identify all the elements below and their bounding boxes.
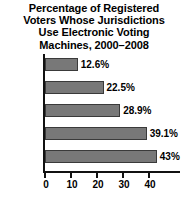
x-axis-tick-label: 30 <box>112 179 136 190</box>
bar[interactable] <box>45 81 104 94</box>
x-axis-line <box>43 171 180 173</box>
x-axis-tick-label: 40 <box>138 179 162 190</box>
bar-value-label: 39.1% <box>150 127 178 140</box>
x-axis-tick <box>44 173 46 178</box>
x-axis-tick-label: 20 <box>86 179 110 190</box>
bar-value-label: 43% <box>160 150 180 163</box>
chart-title: Percentage of Registered Voters Whose Ju… <box>0 2 188 51</box>
x-axis-tick-label: 0 <box>34 179 58 190</box>
bar-value-label: 28.9% <box>123 104 151 117</box>
bar[interactable] <box>45 58 78 71</box>
bar[interactable] <box>45 127 147 140</box>
bar-value-label: 12.6% <box>81 58 109 71</box>
bar-chart-figure: Percentage of Registered Voters Whose Ju… <box>0 0 188 204</box>
x-axis-tick-label: 10 <box>60 179 84 190</box>
x-axis-tick <box>122 173 124 178</box>
plot-area: 2000 12.6% 2002 22.5% 2003 28.9% 2006 39… <box>0 54 188 204</box>
x-axis-tick <box>70 173 72 178</box>
chart-title-line-1: Percentage of Registered <box>0 2 188 14</box>
x-axis-tick <box>148 173 150 178</box>
bar[interactable] <box>45 150 157 163</box>
bar-value-label: 22.5% <box>107 81 135 94</box>
chart-title-line-3: Use Electronic Voting <box>0 26 188 38</box>
x-axis-tick <box>96 173 98 178</box>
bar[interactable] <box>45 104 120 117</box>
chart-title-line-2: Voters Whose Jurisdictions <box>0 14 188 26</box>
chart-title-line-4: Machines, 2000–2008 <box>0 39 188 51</box>
